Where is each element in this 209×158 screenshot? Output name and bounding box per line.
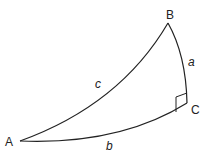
vertex-label-a: A (5, 135, 13, 149)
side-b-arc (20, 103, 187, 141)
side-label-b: b (106, 139, 113, 153)
side-a-arc (168, 23, 187, 103)
spherical-triangle-diagram: A B C c a b (0, 0, 209, 158)
vertex-label-b: B (166, 8, 174, 22)
vertex-label-c: C (191, 103, 200, 117)
side-label-c: c (95, 77, 101, 91)
side-label-a: a (188, 55, 195, 69)
